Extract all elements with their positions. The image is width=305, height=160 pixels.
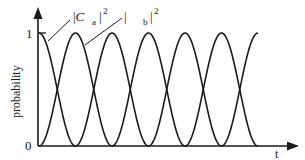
cb-superscript: 2 [154,6,159,16]
cb-base: | [124,9,127,24]
ca-annotation: |C a | 2 [73,6,108,27]
ca-subscript: a [92,17,96,27]
curve-ca-squared [39,33,258,146]
ca-tail: | [99,9,102,24]
y-axis-label: probability [9,65,23,118]
x-axis-arrow-icon [287,142,299,151]
cb-leader-line [85,18,122,45]
svg-text:|C: |C [73,9,85,24]
cb-annotation: |C b | 2 [124,6,159,27]
ytick-label-zero: 0 [25,138,32,153]
cb-tail: | [150,9,153,24]
curve-cb-squared [39,33,258,146]
ca-superscript: 2 [103,6,108,16]
cb-subscript: b [143,17,148,27]
y-axis-arrow-icon [34,7,43,19]
ca-leader-line [48,20,70,41]
x-axis-label: t [275,147,279,160]
ytick-label-one: 1 [26,26,33,41]
probability-chart: 1 0 probability t |C a | 2 |C b | 2 [0,0,305,160]
